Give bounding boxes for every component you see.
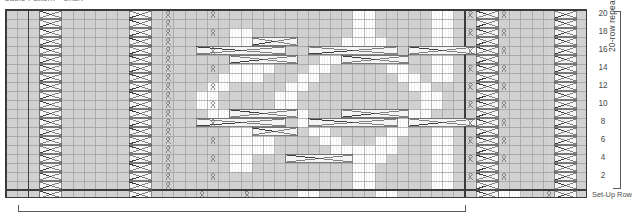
- stitch-repeat-bracket: [18, 205, 466, 212]
- grid-canvas: [6, 10, 586, 197]
- repeat-bracket-label: 20-row repeat: [607, 0, 617, 52]
- knitting-chart-page: Cable Pattern - Chart 2018161412108642 S…: [0, 0, 641, 215]
- chart-caption: Cable Pattern - Chart: [4, 0, 83, 2]
- stitch-chart-grid[interactable]: [5, 9, 587, 198]
- chart-grid-svg: [6, 10, 586, 197]
- chart-title: Cable Pattern - Chart: [0, 0, 1, 1]
- setup-row-label: Set-Up Row: [592, 190, 640, 199]
